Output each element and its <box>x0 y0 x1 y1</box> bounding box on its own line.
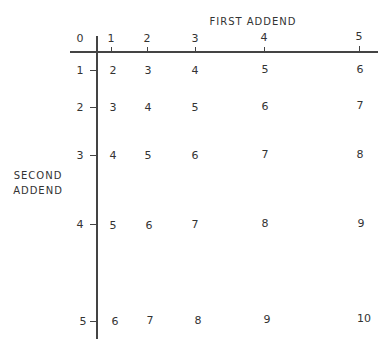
cell: 5 <box>145 149 152 162</box>
cell: 5 <box>262 63 269 76</box>
column-tick <box>195 47 196 52</box>
cell: 4 <box>192 64 199 77</box>
cell: 5 <box>192 101 199 114</box>
column-header: 1 <box>108 32 115 45</box>
cell: 8 <box>262 217 269 230</box>
cell: 10 <box>357 312 371 325</box>
cell: 8 <box>195 314 202 327</box>
column-tick <box>111 47 112 52</box>
cell: 9 <box>358 217 365 230</box>
cell: 7 <box>262 148 269 161</box>
column-tick <box>147 47 148 52</box>
cell: 7 <box>192 218 199 231</box>
row-tick <box>90 107 96 108</box>
row-header: 1 <box>77 64 84 77</box>
cell: 7 <box>147 314 154 327</box>
cell: 6 <box>112 315 119 328</box>
row-tick <box>90 155 96 156</box>
horizontal-axis <box>70 51 378 53</box>
column-header: 4 <box>261 31 268 44</box>
cell: 8 <box>357 148 364 161</box>
column-header: 5 <box>356 30 363 43</box>
row-header: 5 <box>80 315 87 328</box>
y-axis-title-line2: ADDEND <box>13 185 63 196</box>
x-axis-title: FIRST ADDEND <box>209 16 296 27</box>
cell: 6 <box>262 100 269 113</box>
cell: 6 <box>357 63 364 76</box>
vertical-axis <box>96 36 98 339</box>
cell: 3 <box>110 101 117 114</box>
column-header: 3 <box>192 32 199 45</box>
cell: 4 <box>145 101 152 114</box>
origin-label: 0 <box>77 32 84 45</box>
row-tick <box>90 70 96 71</box>
row-header: 2 <box>77 101 84 114</box>
cell: 6 <box>146 219 153 232</box>
column-tick <box>359 46 360 51</box>
row-tick <box>90 224 96 225</box>
cell: 9 <box>264 313 271 326</box>
column-tick <box>264 47 265 52</box>
cell: 5 <box>110 219 117 232</box>
row-header: 3 <box>77 149 84 162</box>
cell: 7 <box>357 99 364 112</box>
cell: 2 <box>110 64 117 77</box>
row-tick <box>90 321 96 322</box>
cell: 6 <box>192 149 199 162</box>
y-axis-title-line1: SECOND <box>14 170 63 181</box>
cell: 4 <box>110 149 117 162</box>
column-header: 2 <box>144 32 151 45</box>
row-header: 4 <box>77 218 84 231</box>
cell: 3 <box>145 64 152 77</box>
